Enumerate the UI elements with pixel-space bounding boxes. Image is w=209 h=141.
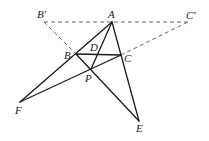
label-B: B xyxy=(64,49,71,61)
label-B-prime: B′ xyxy=(37,8,47,20)
label-A: A xyxy=(107,8,115,20)
label-E: E xyxy=(135,122,143,134)
label-C-prime: C′ xyxy=(186,9,196,21)
label-F: F xyxy=(14,104,22,116)
segment-B1-B xyxy=(44,22,76,54)
segment-C-C1 xyxy=(121,22,188,55)
segment-A-F xyxy=(20,22,112,102)
label-P: P xyxy=(84,72,92,84)
label-C: C xyxy=(124,52,132,64)
label-D: D xyxy=(89,41,98,53)
segment-B-C xyxy=(76,54,121,55)
geometry-diagram: A B′ C′ B C D P F E xyxy=(0,0,209,141)
segment-C-F xyxy=(20,55,121,102)
